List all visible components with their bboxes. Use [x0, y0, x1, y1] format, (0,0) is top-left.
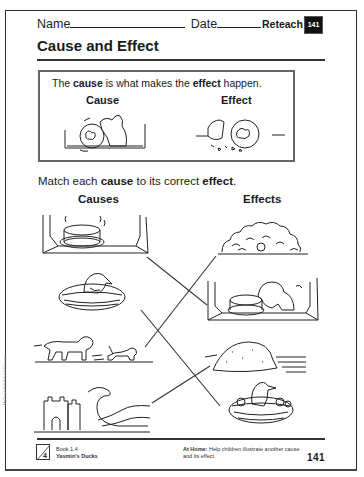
match-line-wave-to-sand [152, 366, 210, 403]
book-number: Book 1.4 [56, 446, 98, 453]
dog-eating-cake-icon[interactable] [208, 278, 318, 320]
cat-hiding-in-bush-icon[interactable] [218, 222, 308, 254]
book-info: Book 1.4 Yasmin's Ducks [56, 446, 98, 460]
match-line-cake-to-dog [147, 257, 207, 305]
story-title: Yasmin's Ducks [56, 453, 98, 460]
match-line-bird-to-chicks [141, 310, 220, 406]
broken-jar-icon [196, 120, 285, 151]
at-home-note: At Home: Help children illustrate anothe… [183, 446, 303, 460]
bird-on-nest-icon[interactable] [59, 274, 125, 311]
at-home-label: At Home: [183, 446, 207, 452]
illustrations-layer [0, 0, 364, 477]
bird-with-chicks-icon[interactable] [229, 382, 293, 423]
match-lines [141, 256, 220, 406]
unit-number-box: 4 [36, 444, 50, 460]
cat-knocking-jar-icon [65, 116, 145, 152]
diagonal-line-icon [37, 445, 50, 460]
sand-mound-icon[interactable] [205, 342, 306, 372]
match-line-dog-cat-to-bush [145, 256, 216, 347]
wave-hitting-sandcastle-icon[interactable] [34, 387, 150, 432]
footer-divider [37, 438, 325, 440]
cake-on-windowsill-icon[interactable] [43, 215, 148, 253]
dog-chasing-cat-icon[interactable] [34, 337, 153, 362]
page-number: 141 [307, 452, 325, 463]
